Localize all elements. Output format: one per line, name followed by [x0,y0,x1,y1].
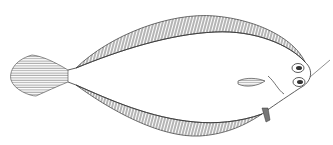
anal-fin [76,85,262,136]
pelvic-fin [262,108,270,122]
pectoral-fin [238,78,265,86]
lateral-line [310,60,330,77]
dorsal-fin [76,16,305,68]
flatfish-illustration [0,0,333,145]
gill-line [268,76,284,94]
fish-drawing [0,0,333,145]
tail-fin [11,55,68,96]
